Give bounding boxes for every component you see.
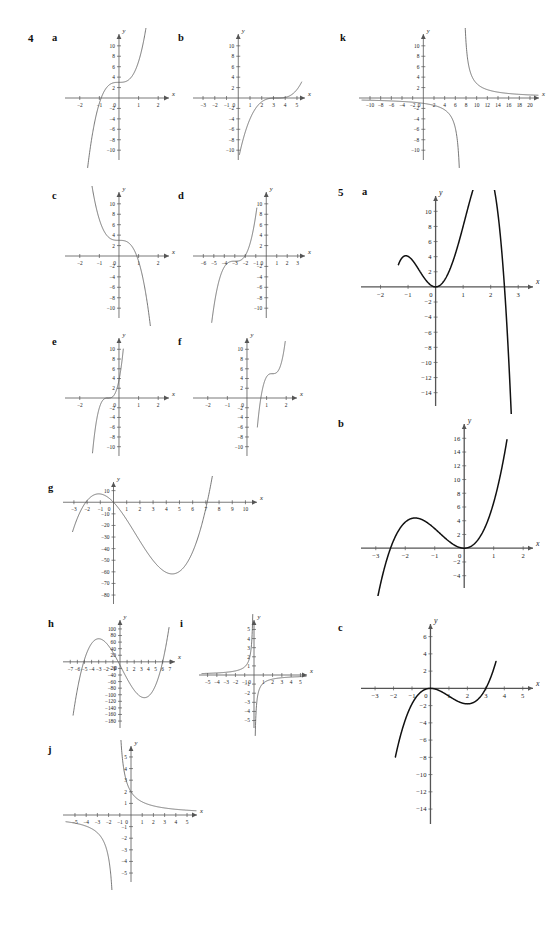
part-label-4k: k (340, 32, 346, 43)
svg-text:6: 6 (428, 238, 432, 245)
svg-text:−2: −2 (233, 679, 239, 685)
tick-labels: −3−2−112345−14−12−10−8−6−4−22460 (372, 633, 526, 812)
graph-figure-4i: −5−4−3−2−112345−5−4−3−2−1123450xy (192, 614, 316, 736)
svg-text:−10: −10 (254, 305, 263, 311)
svg-text:1: 1 (461, 291, 464, 298)
svg-text:18: 18 (517, 102, 523, 108)
svg-text:12: 12 (485, 102, 491, 108)
svg-text:−3: −3 (71, 506, 77, 512)
svg-text:2: 2 (240, 385, 243, 391)
axes (193, 192, 305, 318)
svg-text:10: 10 (110, 43, 116, 49)
svg-text:8: 8 (417, 53, 420, 59)
svg-text:5: 5 (154, 666, 157, 672)
svg-text:8: 8 (428, 223, 432, 230)
svg-text:8: 8 (232, 53, 235, 59)
svg-text:3: 3 (140, 666, 143, 672)
svg-text:y: y (116, 476, 120, 482)
svg-text:6: 6 (260, 222, 263, 228)
axes (361, 624, 533, 824)
svg-text:5: 5 (178, 506, 181, 512)
curve-path (257, 342, 285, 427)
svg-text:y: y (121, 28, 125, 34)
svg-text:3: 3 (163, 819, 166, 825)
svg-text:−10: −10 (107, 305, 116, 311)
svg-text:−140: −140 (105, 705, 116, 711)
svg-text:−2: −2 (425, 298, 432, 305)
svg-text:−2: −2 (121, 835, 127, 841)
svg-text:x: x (171, 90, 175, 97)
svg-text:6: 6 (232, 64, 235, 70)
svg-text:y: y (249, 332, 253, 338)
svg-text:−4: −4 (419, 719, 427, 726)
svg-text:−2: −2 (377, 291, 384, 298)
svg-text:6: 6 (423, 633, 427, 640)
svg-text:−4: −4 (109, 274, 115, 280)
svg-text:1: 1 (137, 402, 140, 408)
svg-text:−2: −2 (453, 558, 460, 565)
svg-text:y: y (134, 740, 138, 746)
svg-text:6: 6 (112, 64, 115, 70)
svg-text:−2: −2 (77, 402, 83, 408)
svg-text:0: 0 (241, 402, 244, 408)
part-label-4j: j (48, 744, 52, 755)
svg-text:−60: −60 (101, 569, 110, 575)
svg-text:−8: −8 (229, 137, 235, 143)
svg-text:x: x (259, 494, 263, 501)
svg-text:16: 16 (454, 435, 461, 442)
curve-path (398, 190, 513, 414)
svg-text:y: y (121, 186, 125, 192)
svg-text:−10: −10 (421, 359, 432, 366)
svg-text:7: 7 (168, 666, 171, 672)
part-label-4e: e (52, 336, 57, 347)
svg-text:−4: −4 (89, 666, 95, 672)
svg-text:−5: −5 (205, 679, 211, 685)
curve-path (362, 100, 460, 168)
svg-text:−6: −6 (237, 424, 243, 430)
svg-text:2: 2 (112, 243, 115, 249)
svg-text:−30: −30 (101, 534, 110, 540)
svg-text:2: 2 (133, 666, 136, 672)
svg-text:−3: −3 (96, 666, 102, 672)
svg-text:−6: −6 (109, 284, 115, 290)
svg-text:−4: −4 (83, 819, 89, 825)
svg-text:3: 3 (247, 645, 250, 651)
axes (63, 620, 175, 728)
svg-text:x: x (199, 807, 203, 814)
svg-text:6: 6 (240, 366, 243, 372)
svg-text:y: y (269, 186, 273, 192)
svg-text:2: 2 (457, 531, 460, 538)
svg-text:−6: −6 (414, 126, 420, 132)
graph-figure-4e: −212−10−8−6−4−22468100xy (58, 332, 178, 464)
svg-text:−70: −70 (101, 580, 110, 586)
svg-text:y: y (433, 618, 438, 625)
graph-figure-4f: −2−112−10−8−6−4−22468100xy (186, 332, 306, 464)
svg-text:8: 8 (240, 356, 243, 362)
svg-text:x: x (535, 679, 540, 688)
svg-text:−4: −4 (109, 116, 115, 122)
svg-text:0: 0 (424, 692, 428, 699)
svg-text:0: 0 (125, 819, 128, 825)
svg-text:2: 2 (489, 291, 492, 298)
svg-text:2: 2 (157, 402, 160, 408)
svg-text:−160: −160 (105, 711, 116, 717)
svg-text:4: 4 (457, 517, 461, 524)
curve-path (255, 676, 306, 736)
svg-text:−40: −40 (108, 672, 117, 678)
svg-text:−8: −8 (109, 137, 115, 143)
svg-text:y: y (438, 190, 443, 197)
svg-text:2: 2 (157, 102, 160, 108)
svg-text:2: 2 (152, 819, 155, 825)
axes (361, 424, 533, 588)
svg-text:10: 10 (474, 102, 480, 108)
svg-text:y: y (121, 332, 125, 338)
svg-text:−12: −12 (421, 374, 431, 381)
svg-text:6: 6 (457, 503, 461, 510)
svg-text:−8: −8 (419, 754, 427, 761)
svg-text:0: 0 (458, 552, 462, 559)
svg-text:−60: −60 (108, 679, 117, 685)
svg-text:−10: −10 (366, 102, 375, 108)
svg-text:5: 5 (521, 692, 525, 699)
svg-text:−4: −4 (214, 679, 220, 685)
svg-text:−20: −20 (101, 522, 110, 528)
